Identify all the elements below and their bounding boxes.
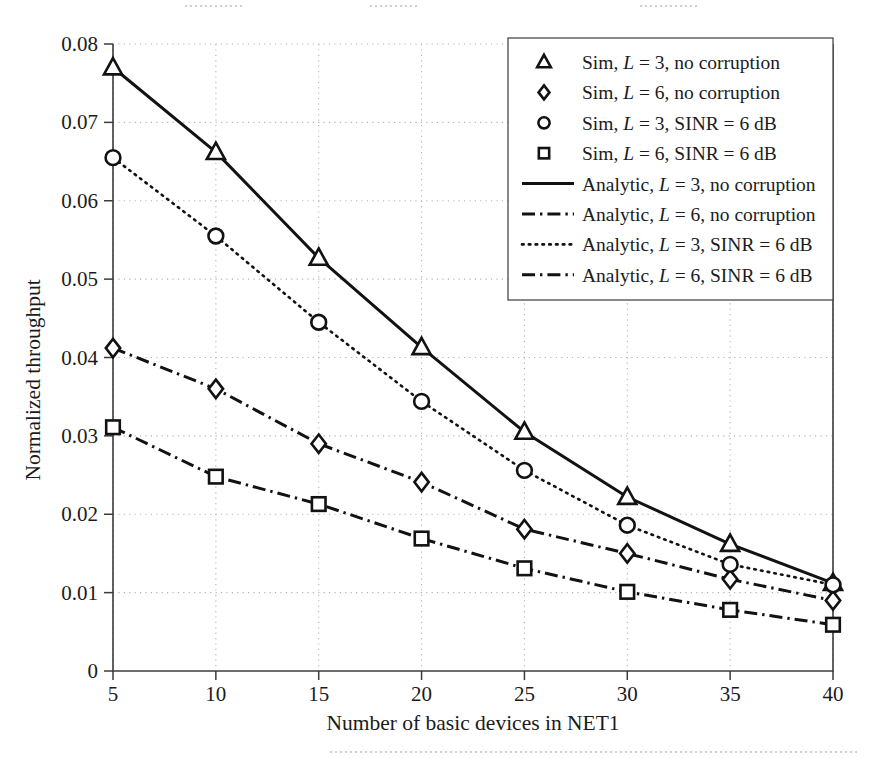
chart-legend: Sim, L = 3, no corruptionSim, L = 6, no … xyxy=(508,38,833,300)
y-tick-label-7: 0.07 xyxy=(61,110,98,134)
diamond-marker-point xyxy=(106,339,120,357)
diamond-marker-point xyxy=(517,520,531,538)
diamond-marker-point xyxy=(414,473,428,491)
y-tick-label-0: 0 xyxy=(88,659,99,683)
x-axis-title: Number of basic devices in NET1 xyxy=(326,711,619,735)
legend-label-3: Sim, L = 6, SINR = 6 dB xyxy=(582,143,777,164)
circle-marker-point xyxy=(106,150,121,165)
square-marker-point xyxy=(415,532,429,546)
triangle-marker-point xyxy=(104,58,122,74)
y-tick-label-5: 0.05 xyxy=(61,267,98,291)
x-tick-label-7: 40 xyxy=(823,682,844,706)
legend-label-1: Sim, L = 6, no corruption xyxy=(582,82,780,103)
square-marker-point xyxy=(826,618,840,632)
circle-marker-point xyxy=(517,463,532,478)
y-tick-label-6: 0.06 xyxy=(61,189,98,213)
circle-marker-point xyxy=(414,394,429,409)
square-marker-point xyxy=(518,562,532,576)
diamond-marker-point xyxy=(826,591,840,609)
square-marker-point xyxy=(620,585,634,599)
y-tick-label-1: 0.01 xyxy=(61,581,98,605)
circle-marker-point xyxy=(826,577,841,592)
square-marker-point xyxy=(312,497,326,511)
legend-label-5: Analytic, L = 6, no corruption xyxy=(582,204,816,225)
y-tick-label-4: 0.04 xyxy=(61,346,98,370)
throughput-line-chart: 00.010.020.030.040.050.060.070.085101520… xyxy=(0,0,876,758)
legend-label-7: Analytic, L = 6, SINR = 6 dB xyxy=(582,265,813,286)
series-line-3 xyxy=(113,427,833,625)
x-tick-label-1: 10 xyxy=(205,682,226,706)
x-tick-label-5: 30 xyxy=(617,682,638,706)
square-marker xyxy=(539,148,549,158)
x-tick-label-6: 35 xyxy=(720,682,741,706)
circle-marker-point xyxy=(723,557,738,572)
x-tick-label-4: 25 xyxy=(514,682,535,706)
y-tick-label-3: 0.03 xyxy=(61,424,98,448)
y-tick-label-8: 0.08 xyxy=(61,32,98,56)
circle-marker-point xyxy=(311,315,326,330)
legend-box xyxy=(508,38,833,300)
diamond-marker-point xyxy=(312,435,326,453)
circle-marker-point xyxy=(620,518,635,533)
square-marker-point xyxy=(106,420,120,434)
y-axis-title: Normalized throughput xyxy=(21,279,45,480)
square-marker-point xyxy=(723,603,737,617)
legend-label-2: Sim, L = 3, SINR = 6 dB xyxy=(582,113,777,134)
x-tick-label-2: 15 xyxy=(308,682,329,706)
x-tick-label-0: 5 xyxy=(108,682,119,706)
square-marker-point xyxy=(209,470,223,484)
x-tick-label-3: 20 xyxy=(411,682,432,706)
triangle-marker-point xyxy=(618,488,636,504)
legend-label-6: Analytic, L = 3, SINR = 6 dB xyxy=(582,234,813,255)
y-tick-label-2: 0.02 xyxy=(61,502,98,526)
diamond-marker-point xyxy=(620,544,634,562)
legend-label-0: Sim, L = 3, no corruption xyxy=(582,52,780,73)
legend-label-4: Analytic, L = 3, no corruption xyxy=(582,174,816,195)
circle-marker-point xyxy=(208,229,223,244)
figure-root: 00.010.020.030.040.050.060.070.085101520… xyxy=(0,0,876,758)
circle-marker xyxy=(538,117,549,128)
diamond-marker-point xyxy=(209,380,223,398)
